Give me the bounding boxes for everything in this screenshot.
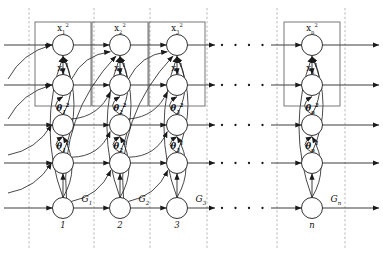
node-g-slice-2	[110, 198, 131, 219]
arc-theta1-next-theta2-s1	[72, 132, 111, 158]
ellipsis-dot-x1-0	[221, 84, 223, 86]
label-theta1-slice-1: θ11	[56, 141, 69, 151]
label-x1-slice-2: x21	[114, 63, 126, 73]
ellipsis-dot-x2-0	[221, 44, 223, 46]
ellipsis-dot-th2-3	[261, 124, 263, 126]
ellipsis-dot-th1-2	[248, 162, 250, 164]
slice-number-n: n	[309, 220, 314, 230]
slice-number-2: 2	[117, 220, 122, 230]
node-x1-slice-n	[302, 75, 323, 96]
node-g-slice-n	[302, 198, 323, 219]
label-x1-slice-3: x31	[171, 63, 183, 73]
ellipsis-dot-th2-0	[221, 124, 223, 126]
ellipsis-dot-g-3	[261, 207, 263, 209]
ellipsis-dot-g-0	[221, 207, 223, 209]
label-x1-slice-n: xn1	[306, 63, 318, 73]
ellipsis-dots	[221, 44, 264, 209]
node-g-slice-1	[53, 198, 74, 219]
node-th2-slice-n	[302, 115, 323, 136]
ellipsis-dot-g-2	[248, 207, 250, 209]
ellipsis-dot-th1-0	[221, 162, 223, 164]
slice-number-3: 3	[174, 220, 179, 230]
arc-prior-in-2	[8, 125, 52, 155]
label-x2-slice-1: x12	[57, 23, 69, 33]
label-x1-slice-1: x11	[57, 63, 69, 73]
ellipsis-dot-th1-3	[261, 162, 263, 164]
label-theta2-slice-n: θn2	[305, 103, 318, 113]
label-gate-slice-2: G2	[139, 194, 150, 204]
label-theta2-slice-2: θ22	[113, 103, 126, 113]
label-x2-slice-2: x22	[114, 23, 126, 33]
label-gate-slice-n: Gn	[331, 194, 342, 204]
label-x2-slice-n: xn2	[306, 23, 318, 33]
node-th1-slice-2	[110, 153, 131, 174]
label-x2-slice-3: x32	[171, 23, 183, 33]
node-g-slice-3	[167, 198, 188, 219]
arc-prior-in-0	[8, 45, 52, 79]
node-x2-slice-1	[53, 35, 74, 56]
variable-nodes	[53, 35, 323, 219]
node-x2-slice-3	[167, 35, 188, 56]
arc-prior-in-1	[8, 85, 52, 119]
label-gate-slice-1: G1	[82, 194, 93, 204]
label-theta1-slice-3: θ31	[170, 141, 183, 151]
node-th1-slice-1	[53, 153, 74, 174]
arc-theta1-next-theta2-s2	[129, 132, 168, 158]
ellipsis-dot-x2-2	[248, 44, 250, 46]
ellipsis-dot-g-1	[234, 207, 236, 209]
ellipsis-dot-th2-1	[234, 124, 236, 126]
node-th2-slice-1	[53, 115, 74, 136]
node-x1-slice-3	[167, 75, 188, 96]
ellipsis-dot-x1-3	[261, 84, 263, 86]
graph-svg	[0, 0, 383, 257]
label-theta1-slice-2: θ21	[113, 141, 126, 151]
label-theta1-slice-n: θn1	[305, 141, 318, 151]
ellipsis-dot-x1-1	[234, 84, 236, 86]
node-x2-slice-2	[110, 35, 131, 56]
ellipsis-dot-th1-1	[234, 162, 236, 164]
node-th1-slice-3	[167, 153, 188, 174]
node-th1-slice-n	[302, 153, 323, 174]
node-th2-slice-2	[110, 115, 131, 136]
node-th2-slice-3	[167, 115, 188, 136]
slice-number-1: 1	[60, 220, 65, 230]
label-theta2-slice-3: θ32	[170, 103, 183, 113]
label-theta2-slice-1: θ12	[56, 103, 69, 113]
ellipsis-dot-x1-2	[248, 84, 250, 86]
ellipsis-dot-th2-2	[248, 124, 250, 126]
node-x1-slice-2	[110, 75, 131, 96]
figure-canvas: x12x11θ12θ11G11x22x21θ22θ21G22x32x31θ32θ…	[0, 0, 383, 257]
label-gate-slice-3: G3	[196, 194, 207, 204]
arc-prior-in-3	[8, 163, 52, 193]
node-x2-slice-n	[302, 35, 323, 56]
ellipsis-dot-x2-3	[261, 44, 263, 46]
ellipsis-dot-x2-1	[234, 44, 236, 46]
node-x1-slice-1	[53, 75, 74, 96]
